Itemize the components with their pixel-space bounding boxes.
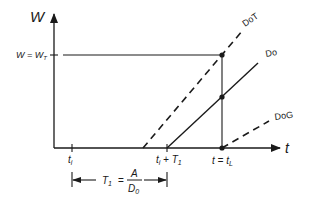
dog-label: DoG bbox=[274, 110, 294, 122]
intersection-point-middle bbox=[219, 94, 224, 99]
x-axis-label: t bbox=[285, 140, 290, 156]
y-level-label: W = WT bbox=[16, 50, 48, 61]
dog-line bbox=[222, 121, 269, 148]
dimension-equals: = bbox=[118, 175, 124, 186]
tl-label: t = tL bbox=[212, 155, 233, 167]
dot-line bbox=[143, 30, 243, 148]
do-label: Do bbox=[265, 47, 278, 59]
wear-time-diagram: W t W = WT DoT Do DoG ti ti + T1 bbox=[0, 0, 311, 201]
dimension-lhs: T1 bbox=[102, 175, 112, 187]
y-axis-label: W bbox=[30, 8, 46, 25]
dot-label: DoT bbox=[240, 10, 260, 28]
ti-plus-t1-label: ti + T1 bbox=[156, 154, 182, 166]
dimension-denominator: D0 bbox=[128, 183, 139, 195]
intersection-point-top bbox=[219, 52, 224, 57]
intersection-point-bottom bbox=[219, 145, 224, 150]
dimension-numerator: A bbox=[130, 168, 138, 179]
ti-label: ti bbox=[68, 154, 73, 166]
